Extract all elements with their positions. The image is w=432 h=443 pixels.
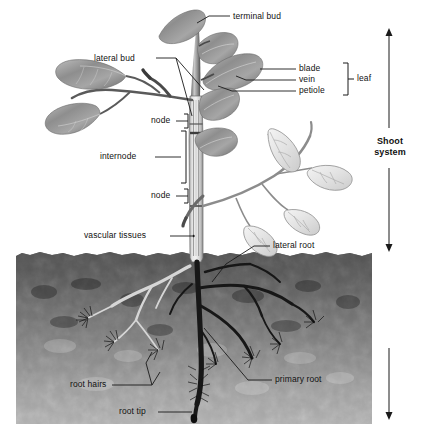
diagram-artwork xyxy=(0,0,432,443)
label-leaf: leaf xyxy=(357,73,371,83)
label-lateral-bud: lateral bud xyxy=(94,53,135,63)
label-blade: blade xyxy=(299,63,320,73)
label-vein: vein xyxy=(299,74,315,84)
root-system-line-2: system xyxy=(374,333,406,343)
bracket-leaf xyxy=(343,63,348,95)
soil-block xyxy=(16,252,372,424)
shoot-system-line-2: system xyxy=(374,147,406,157)
label-terminal-bud: terminal bud xyxy=(233,11,281,21)
bracket-internode xyxy=(181,131,186,183)
shoot-arrow-down-head xyxy=(386,244,393,252)
label-root-system: Root system xyxy=(372,322,408,343)
label-root-hairs: root hairs xyxy=(70,379,106,389)
label-node-upper: node xyxy=(151,115,170,125)
root-arrow-down-head xyxy=(386,412,393,420)
root-system-line-1: Root xyxy=(380,322,401,332)
label-root-tip: root tip xyxy=(119,406,146,416)
label-shoot-system: Shoot system xyxy=(372,136,408,157)
label-petiole: petiole xyxy=(299,85,325,95)
label-vascular-tissues: vascular tissues xyxy=(84,230,146,240)
label-internode: internode xyxy=(100,151,136,161)
shoot-arrow-up-head xyxy=(386,28,393,36)
label-node-lower: node xyxy=(151,190,170,200)
label-lateral-root: lateral root xyxy=(273,240,314,250)
label-primary-root: primary root xyxy=(275,374,322,384)
upper-right-leaves xyxy=(159,10,263,156)
system-arrows xyxy=(386,28,393,420)
plant-anatomy-diagram: terminal bud lateral bud blade vein peti… xyxy=(0,0,432,443)
shoot-system-line-1: Shoot xyxy=(377,136,403,146)
